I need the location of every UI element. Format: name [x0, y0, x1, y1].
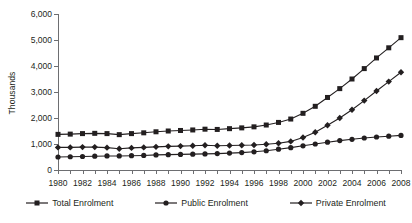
y-tick-label: 5,000: [31, 35, 52, 45]
x-tick-label: 2004: [343, 178, 362, 188]
y-tick-label: 3,000: [31, 87, 52, 97]
x-tick: [389, 170, 390, 174]
legend-item-private-enrolment[interactable]: Private Enrolment: [290, 198, 386, 208]
x-tick-label: 1990: [171, 178, 190, 188]
x-tick-label: 1982: [73, 178, 92, 188]
y-tick-label: 2,000: [31, 113, 52, 123]
x-tick: [364, 170, 365, 174]
x-tick-label: 1986: [122, 178, 141, 188]
x-tick: [168, 170, 169, 174]
x-tick: [340, 170, 341, 174]
x-tick-label: 1984: [98, 178, 117, 188]
x-tick-label: 1998: [269, 178, 288, 188]
enrolment-line-chart: Thousands 01,0002,0003,0004,0005,0006,00…: [0, 0, 412, 223]
legend-item-label: Private Enrolment: [316, 198, 386, 208]
x-tick: [144, 170, 145, 174]
x-tick: [181, 170, 182, 174]
legend-item-total-enrolment[interactable]: Total Enrolment: [26, 198, 113, 208]
circle-marker-icon: [155, 198, 177, 208]
chart-legend: Total EnrolmentPublic EnrolmentPrivate E…: [0, 198, 412, 208]
x-tick: [303, 170, 304, 174]
x-tick: [217, 170, 218, 174]
y-axis-title: Thousands: [7, 50, 17, 136]
x-tick: [107, 170, 108, 174]
plot-area: 01,0002,0003,0004,0005,0006,000 19801982…: [58, 14, 401, 170]
legend-item-public-enrolment[interactable]: Public Enrolment: [155, 198, 248, 208]
series-total-enrolment: [56, 35, 404, 137]
x-tick-label: 2000: [294, 178, 313, 188]
x-tick-label: 1996: [245, 178, 264, 188]
x-tick: [119, 170, 120, 174]
diamond-marker-icon: [290, 198, 312, 208]
x-tick-label: 1992: [196, 178, 215, 188]
x-tick: [230, 170, 231, 174]
x-tick-label: 2008: [392, 178, 411, 188]
x-tick: [401, 170, 402, 174]
x-tick-label: 2006: [367, 178, 386, 188]
y-tick-label: 1,000: [31, 139, 52, 149]
x-tick: [291, 170, 292, 174]
x-tick: [70, 170, 71, 174]
x-tick: [352, 170, 353, 174]
x-tick: [254, 170, 255, 174]
y-tick-label: 6,000: [31, 9, 52, 19]
x-tick: [377, 170, 378, 174]
x-tick-label: 1988: [147, 178, 166, 188]
x-tick: [266, 170, 267, 174]
x-tick: [328, 170, 329, 174]
y-tick-label: 0: [47, 165, 52, 175]
x-tick: [156, 170, 157, 174]
x-tick: [205, 170, 206, 174]
square-marker-icon: [26, 198, 48, 208]
x-tick: [315, 170, 316, 174]
x-tick: [242, 170, 243, 174]
y-tick-label: 4,000: [31, 61, 52, 71]
x-tick: [58, 170, 59, 174]
legend-item-label: Public Enrolment: [181, 198, 248, 208]
x-tick: [279, 170, 280, 174]
x-tick-label: 1980: [49, 178, 68, 188]
x-tick: [132, 170, 133, 174]
x-tick-label: 2002: [318, 178, 337, 188]
x-tick-label: 1994: [220, 178, 239, 188]
x-tick: [95, 170, 96, 174]
x-tick: [83, 170, 84, 174]
x-tick: [193, 170, 194, 174]
legend-item-label: Total Enrolment: [52, 198, 113, 208]
series-layer: [58, 14, 401, 170]
